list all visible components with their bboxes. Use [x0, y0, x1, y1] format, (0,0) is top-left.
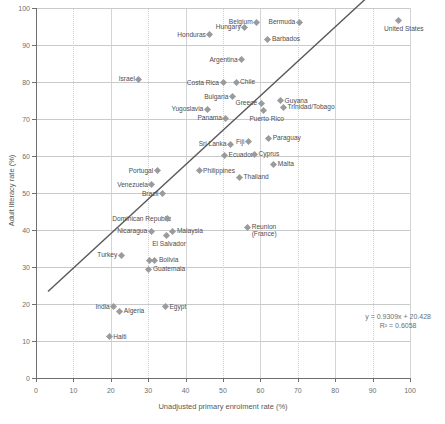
data-point-label: Dominican Republic — [112, 215, 171, 222]
data-point-label: Sri Lanka — [199, 140, 227, 147]
trendline-r2: R² = 0.6058 — [365, 321, 431, 330]
x-tick-mark — [36, 378, 37, 382]
trendline — [36, 8, 410, 378]
x-tick-mark — [298, 378, 299, 382]
data-point-label: Yugoslavia — [171, 105, 203, 112]
data-point-label: Venezuela — [117, 181, 148, 188]
y-axis-line — [36, 8, 37, 378]
y-tick-mark — [32, 119, 36, 120]
y-tick-label: 10 — [6, 338, 30, 345]
data-point-label: Barbados — [272, 35, 300, 42]
x-tick-label: 80 — [320, 387, 350, 394]
data-point-label: Portugal — [129, 167, 154, 174]
y-tick-mark — [32, 267, 36, 268]
data-point-label: Chile — [240, 78, 255, 85]
data-point-label: Israel — [119, 75, 135, 82]
x-tick-mark — [260, 378, 261, 382]
x-tick-mark — [148, 378, 149, 382]
data-point-label: Paraguay — [273, 134, 301, 141]
trendline-equation-box: y = 0.9309x + 20.428 R² = 0.6058 — [365, 312, 431, 330]
data-point-label: Greece — [236, 99, 258, 106]
data-point-label: Reunion (France) — [252, 223, 277, 238]
x-tick-label: 20 — [96, 387, 126, 394]
x-tick-label: 50 — [208, 387, 238, 394]
data-point-label: Panama — [197, 114, 222, 121]
x-tick-mark — [335, 378, 336, 382]
y-tick-label: 90 — [6, 42, 30, 49]
data-point-label: Bermuda — [269, 18, 296, 25]
scatter-chart: HondurasBelgiumHungaryBermudaUnited Stat… — [0, 0, 445, 424]
x-tick-label: 90 — [358, 387, 388, 394]
data-point-label: Egypt — [169, 303, 186, 310]
x-tick-label: 30 — [133, 387, 163, 394]
data-point-label: Thailand — [243, 173, 268, 180]
x-tick-mark — [410, 378, 411, 382]
x-tick-mark — [373, 378, 374, 382]
data-point-label: Bulgaria — [204, 93, 228, 100]
y-tick-mark — [32, 8, 36, 9]
y-tick-label: 100 — [6, 5, 30, 12]
y-tick-label: 80 — [6, 79, 30, 86]
y-tick-mark — [32, 230, 36, 231]
data-point-label: India — [95, 303, 109, 310]
data-point-label: Philippines — [203, 167, 235, 174]
y-tick-label: 0 — [6, 375, 30, 382]
data-point-label: Honduras — [177, 31, 206, 38]
y-tick-mark — [32, 82, 36, 83]
data-point-label: United States — [384, 25, 424, 32]
data-point-label: Guatemala — [153, 265, 185, 272]
y-tick-mark — [32, 156, 36, 157]
data-point-label: Argentina — [209, 56, 237, 63]
y-tick-mark — [32, 304, 36, 305]
y-axis-title: Adult literacy rate (%) — [7, 101, 16, 281]
x-tick-label: 60 — [245, 387, 275, 394]
data-point-label: Nicaragua — [117, 227, 147, 234]
data-point-label: Algeria — [124, 307, 145, 314]
data-point-label: Malta — [278, 160, 294, 167]
x-tick-label: 70 — [283, 387, 313, 394]
data-point-label: Turkey — [97, 251, 117, 258]
x-tick-mark — [111, 378, 112, 382]
y-tick-label: 20 — [6, 301, 30, 308]
x-tick-label: 100 — [395, 387, 425, 394]
data-point-label: Haiti — [113, 333, 126, 340]
data-point-label: Costa Rica — [187, 79, 219, 86]
data-point-label: El Salvador — [152, 240, 186, 247]
y-tick-mark — [32, 341, 36, 342]
data-point-label: Trinidad/Tobago — [288, 103, 335, 110]
y-tick-mark — [32, 45, 36, 46]
data-point-label: Ecuador — [228, 151, 253, 158]
x-tick-mark — [186, 378, 187, 382]
y-tick-mark — [32, 193, 36, 194]
x-tick-mark — [223, 378, 224, 382]
x-axis-title: Unadjusted primary enrolment rate (%) — [36, 402, 410, 411]
data-point-label: Malaysia — [177, 227, 203, 234]
x-tick-label: 0 — [21, 387, 51, 394]
data-point-label: Cyprus — [258, 150, 279, 157]
x-tick-label: 40 — [171, 387, 201, 394]
data-point-label: Hungary — [216, 23, 241, 30]
x-tick-label: 10 — [58, 387, 88, 394]
data-point-label: Brazil — [142, 190, 159, 197]
plot-area: HondurasBelgiumHungaryBermudaUnited Stat… — [36, 8, 410, 378]
data-point-label: Puerto Rico — [249, 115, 283, 122]
x-tick-mark — [73, 378, 74, 382]
trendline-equation: y = 0.9309x + 20.428 — [365, 312, 431, 321]
data-point-label: Fiji — [236, 138, 244, 145]
data-point-label: Bolivia — [159, 256, 178, 263]
